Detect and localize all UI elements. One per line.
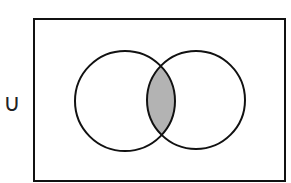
venn-diagram (0, 0, 291, 183)
union-symbol: ∪ (0, 88, 24, 118)
